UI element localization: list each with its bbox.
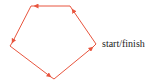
path-segment-1 <box>72 9 96 44</box>
start-finish-label: start/finish <box>102 38 145 49</box>
path-segment-3 <box>12 6 31 43</box>
path-segment-5 <box>54 47 93 79</box>
path-segment-4 <box>10 46 51 77</box>
